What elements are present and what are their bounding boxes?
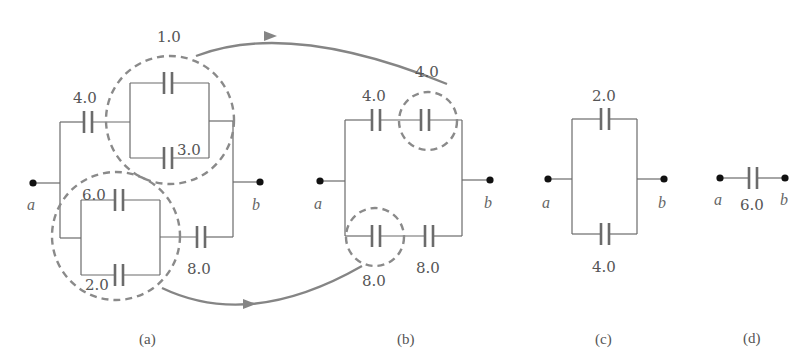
capacitor-1.0 (164, 72, 172, 94)
terminal-a-dot (544, 175, 551, 182)
panel-b: a 4.0 4.0 b 8.0 8.0 (b) (314, 63, 494, 348)
capacitor-6.0 (115, 189, 123, 211)
capacitor-value-label: 8.0 (362, 272, 386, 290)
grouping-circle-upper (106, 56, 234, 184)
capacitor-value-label: 2.0 (592, 87, 616, 105)
capacitor-value-label: 4.0 (73, 89, 97, 107)
terminal-a-dot (316, 177, 323, 184)
terminal-b-label: b (484, 194, 492, 211)
terminal-a-dot (29, 179, 36, 186)
capacitor-4.0 (601, 223, 609, 245)
terminal-a-label: a (542, 194, 550, 211)
capacitor-8.0 (425, 225, 433, 247)
capacitor-4.0-combined (421, 109, 429, 131)
capacitor-8.0 (197, 226, 205, 248)
terminal-b-dot (781, 174, 788, 181)
panel-caption: (a) (139, 331, 156, 348)
capacitor-reduction-diagram: a 4.0 1.0 3.0 b 6.0 2.0 (0, 0, 810, 363)
terminal-a-dot (716, 174, 723, 181)
capacitor-2.0 (115, 264, 123, 286)
capacitor-4.0 (372, 109, 380, 131)
capacitor-3.0 (164, 147, 172, 169)
capacitor-8.0-combined (372, 225, 380, 247)
arrow-upper (196, 43, 447, 84)
terminal-a-label: a (314, 195, 322, 212)
capacitor-value-label: 4.0 (592, 258, 616, 276)
arrowhead-icon (243, 299, 256, 309)
terminal-b-label: b (658, 194, 666, 211)
terminal-b-dot (660, 175, 667, 182)
capacitor-value-label: 3.0 (177, 141, 201, 159)
terminal-a-label: a (714, 191, 722, 208)
grouping-circle-lower (346, 208, 404, 266)
panel-a: a 4.0 1.0 3.0 b 6.0 2.0 (27, 28, 264, 348)
panel-caption: (d) (743, 330, 761, 347)
panel-c: a 2.0 4.0 b (c) (542, 87, 668, 348)
capacitor-value-label: 8.0 (187, 260, 211, 278)
capacitor-value-label: 4.0 (415, 63, 439, 81)
panel-caption: (c) (595, 331, 612, 348)
capacitor-value-label: 8.0 (416, 259, 440, 277)
capacitor-value-label: 2.0 (85, 276, 109, 294)
capacitor-6.0-equivalent (749, 167, 757, 189)
terminal-b-label: b (252, 196, 260, 213)
capacitor-2.0 (601, 108, 609, 130)
capacitor-value-label: 6.0 (82, 186, 106, 204)
capacitor-value-label: 6.0 (740, 196, 764, 214)
arrowhead-icon (264, 31, 277, 41)
terminal-b-dot (256, 178, 263, 185)
terminal-b-label: b (780, 191, 788, 208)
capacitor-value-label: 4.0 (362, 87, 386, 105)
panel-d: a 6.0 b (d) (714, 167, 789, 347)
terminal-a-label: a (27, 196, 35, 213)
capacitor-value-label: 1.0 (157, 28, 181, 46)
terminal-b-dot (486, 176, 493, 183)
panel-caption: (b) (397, 331, 415, 348)
capacitor-4.0 (84, 111, 92, 133)
